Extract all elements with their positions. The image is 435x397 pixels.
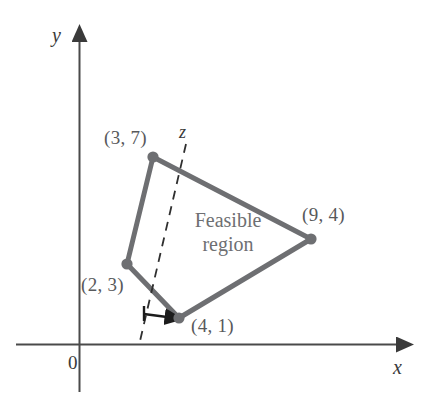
vertex-dot-2-3 [121, 258, 132, 269]
x-axis-label: x [393, 357, 402, 377]
y-axis-label: y [52, 25, 61, 45]
feasible-region-label-line2: region [176, 232, 280, 256]
vertex-label-3-7: (3, 7) [104, 128, 147, 147]
vertex-dot-4-1 [173, 312, 184, 323]
vertex-label-2-3: (2, 3) [81, 275, 124, 294]
diagram-canvas [0, 0, 435, 397]
vertex-dot-9-4 [305, 233, 316, 244]
objective-direction-arrow [144, 314, 167, 317]
origin-label: 0 [68, 353, 78, 372]
feasible-region-figure: (3, 7) (9, 4) (4, 1) (2, 3) y x 0 z Feas… [0, 0, 435, 397]
vertex-label-4-1: (4, 1) [191, 316, 234, 335]
vertex-label-9-4: (9, 4) [302, 205, 345, 224]
feasible-region-label-line1: Feasible [176, 208, 280, 232]
vertex-dot-3-7 [147, 151, 158, 162]
objective-line-label: z [179, 123, 186, 141]
feasible-region-label: Feasible region [176, 208, 280, 257]
